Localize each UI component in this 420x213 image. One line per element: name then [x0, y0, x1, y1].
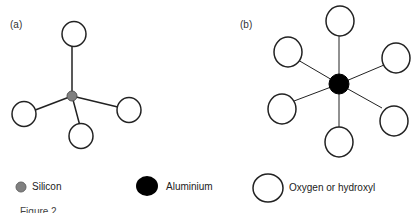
oxygen-legend-icon — [253, 174, 283, 202]
octahedron — [268, 6, 410, 157]
legend-silicon-label: Silicon — [32, 181, 61, 192]
panel-b-label: (b) — [240, 19, 252, 30]
panel-a-label: (a) — [10, 19, 22, 30]
silicon-legend-icon — [16, 182, 26, 192]
aluminium-legend-icon — [136, 176, 158, 196]
figure-caption: Figure 2 — [20, 206, 57, 213]
legend-aluminium-label: Aluminium — [166, 181, 213, 192]
tetrahedron — [12, 22, 141, 149]
legend-oxygen-label: Oxygen or hydroxyl — [289, 182, 375, 193]
